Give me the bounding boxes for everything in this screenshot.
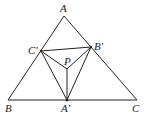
diagram-svg: A B C A′ B′ C′ P — [0, 0, 150, 116]
segment-C1B1 — [41, 47, 91, 51]
point-A1-dot — [66, 99, 69, 102]
label-C-prime: C′ — [28, 44, 38, 56]
triangle-diagram: A B C A′ B′ C′ P — [0, 0, 150, 116]
point-C1-dot — [40, 50, 42, 52]
label-A-prime: A′ — [60, 102, 71, 114]
segment-CA — [64, 16, 137, 100]
label-A: A — [59, 2, 67, 14]
point-B1-dot — [90, 46, 92, 48]
label-B: B — [5, 102, 12, 114]
label-B-prime: B′ — [94, 40, 104, 52]
segment-AB — [8, 16, 64, 100]
label-P: P — [63, 55, 71, 67]
label-C: C — [132, 102, 140, 114]
